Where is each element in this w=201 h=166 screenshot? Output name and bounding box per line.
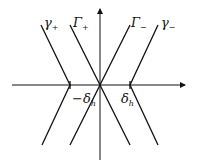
label-Gamma-minus: Γ− — [130, 15, 147, 32]
label-gamma-minus: γ− — [161, 15, 175, 32]
label-gamma-plus: γ+ — [44, 15, 58, 32]
label-neg-delta-h: −δh — [72, 91, 96, 108]
label-Gamma-plus: Γ+ — [72, 15, 89, 32]
label-pos-delta-h: δh — [121, 91, 134, 108]
diagram-canvas: γ+ Γ+ Γ− γ− −δh δh — [0, 0, 201, 166]
